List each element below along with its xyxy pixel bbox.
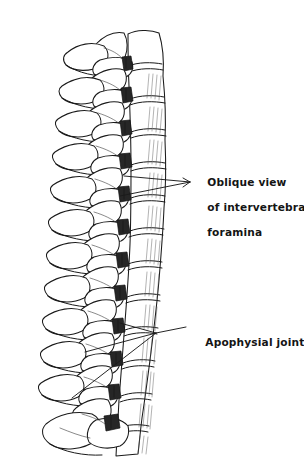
annotation-line-1: Oblique view: [207, 176, 286, 188]
annotation-apophysial-text: Apophysial joints: [205, 336, 304, 348]
annotation-apophysial-joints: Apophysial joints: [190, 323, 304, 361]
vertebra-level-12: [43, 399, 129, 455]
annotation-line-2: of intervertebral: [207, 201, 304, 213]
annotation-oblique-view-foramina: Oblique view of intervertebral foramina: [192, 163, 304, 251]
annotation-line-3: foramina: [207, 226, 262, 238]
figure-canvas: Oblique view of intervertebral foramina …: [0, 0, 304, 476]
